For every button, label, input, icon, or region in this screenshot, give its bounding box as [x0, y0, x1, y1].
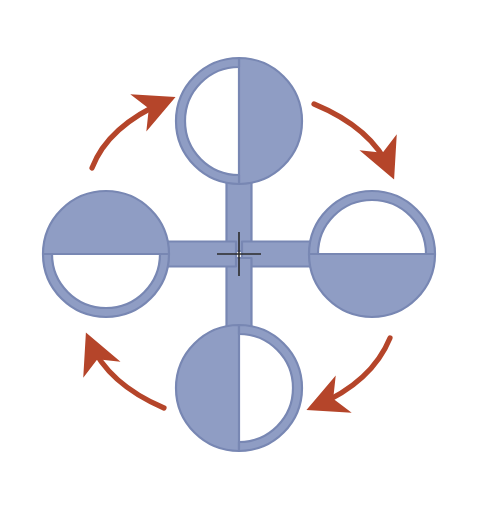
lollipop-top-body: [176, 58, 302, 251]
rotation-arrow-lower-right[interactable]: [316, 338, 390, 406]
lollipop-bottom-body: [176, 258, 302, 451]
lollipop-right-body: [242, 191, 435, 317]
lollipop-left[interactable]: [43, 191, 236, 317]
lollipop-bottom[interactable]: [176, 258, 302, 451]
lollipop-right[interactable]: [242, 191, 435, 317]
rotation-axis-cross: [217, 232, 261, 276]
rotation-arrow-lower-left[interactable]: [90, 342, 164, 408]
figure-root: [0, 0, 478, 505]
rotation-diagram-svg: [0, 0, 478, 505]
rotation-arrow-upper-left[interactable]: [92, 101, 166, 168]
lollipop-left-body: [43, 191, 236, 317]
rotation-arrow-upper-right[interactable]: [314, 104, 390, 170]
lollipop-top[interactable]: [176, 58, 302, 251]
